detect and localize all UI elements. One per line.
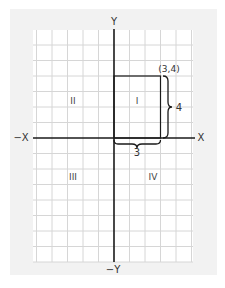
height-dimension-label: 4 — [176, 103, 182, 113]
x-axis-negative-label: −X — [13, 133, 28, 143]
y-axis-negative-label: −Y — [106, 265, 121, 275]
width-dimension-label: 3 — [134, 148, 140, 158]
quadrant-iv-label: IV — [149, 173, 158, 182]
quadrant-iii-label: III — [69, 173, 77, 182]
quadrant-ii-label: II — [70, 97, 75, 106]
x-axis-positive-label: X — [198, 133, 205, 143]
y-axis-positive-label: Y — [111, 17, 117, 27]
quadrant-i-label: I — [136, 97, 139, 106]
point-label: (3,4) — [158, 65, 179, 74]
coordinate-plane — [0, 0, 225, 288]
